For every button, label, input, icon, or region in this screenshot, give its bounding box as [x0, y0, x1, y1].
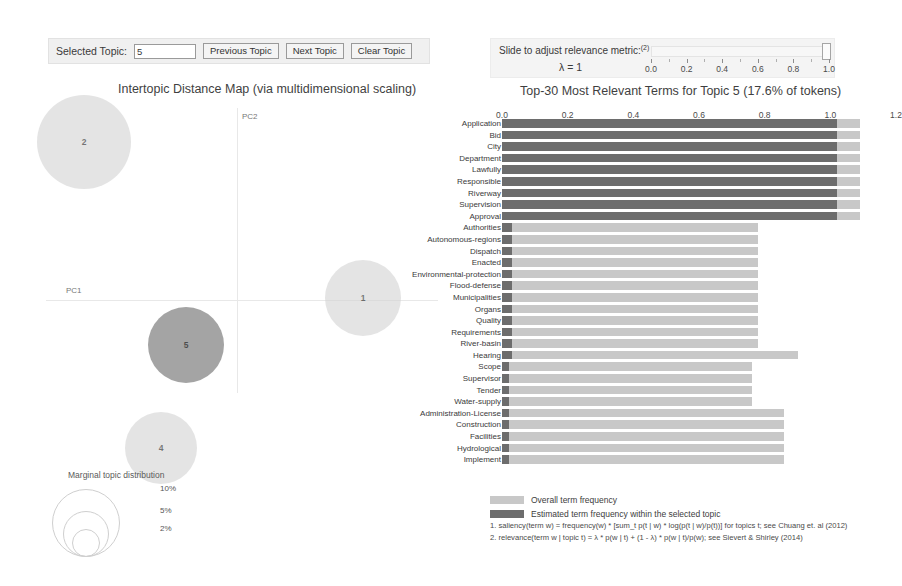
- bar-term-label[interactable]: Application: [462, 118, 501, 130]
- marginal-size-label: 2%: [160, 524, 172, 533]
- bar-chart-row[interactable]: Requirements: [418, 327, 896, 339]
- bar-chart-row[interactable]: Quality: [418, 315, 896, 327]
- bar-term-label[interactable]: Requirements: [451, 327, 501, 339]
- bar-term-label[interactable]: Authorities: [463, 222, 501, 234]
- bar-term-label[interactable]: City: [487, 141, 501, 153]
- bar-overall-frequency: [502, 270, 758, 279]
- bar-overall-frequency: [502, 432, 784, 441]
- bar-chart-row[interactable]: Bid: [418, 130, 896, 142]
- bar-term-label[interactable]: Organs: [475, 304, 501, 316]
- bar-estimated-frequency: [502, 281, 512, 290]
- selected-topic-input[interactable]: [134, 44, 196, 59]
- bar-estimated-frequency: [502, 131, 837, 140]
- bar-chart-row[interactable]: Application: [418, 118, 896, 130]
- bar-overall-frequency: [502, 409, 784, 418]
- topic-bubble-5[interactable]: 5: [148, 307, 224, 383]
- topic-bubble-2[interactable]: 2: [37, 95, 131, 189]
- bar-term-label[interactable]: Implement: [464, 454, 501, 466]
- legend-row-overall: Overall term frequency: [490, 494, 890, 506]
- bar-term-label[interactable]: Riverway: [468, 188, 501, 200]
- bar-estimated-frequency: [502, 154, 837, 163]
- bar-overall-frequency: [502, 235, 758, 244]
- bar-term-label[interactable]: Quality: [476, 315, 501, 327]
- bar-term-label[interactable]: Municipalities: [453, 292, 501, 304]
- relevance-slider-track[interactable]: [651, 46, 829, 57]
- bar-chart-row[interactable]: Supervisor: [418, 373, 896, 385]
- bar-term-label[interactable]: Dispatch: [470, 246, 501, 258]
- bar-chart-row[interactable]: Implement: [418, 454, 896, 466]
- bar-overall-frequency: [502, 316, 758, 325]
- slider-tick-major: [829, 59, 830, 63]
- bar-chart-row[interactable]: Approval: [418, 211, 896, 223]
- bar-chart-row[interactable]: Environmental-protection: [418, 269, 896, 281]
- previous-topic-button[interactable]: Previous Topic: [203, 43, 279, 59]
- bar-estimated-frequency: [502, 235, 512, 244]
- bar-chart-row[interactable]: Lawfully: [418, 164, 896, 176]
- bar-overall-frequency: [502, 444, 784, 453]
- bar-estimated-frequency: [502, 119, 837, 128]
- slider-tick-minor: [740, 59, 741, 62]
- bar-chart-row[interactable]: Supervision: [418, 199, 896, 211]
- topic-bubble-1[interactable]: 1: [325, 260, 401, 336]
- bar-term-label[interactable]: Water-supply: [454, 396, 501, 408]
- bar-term-label[interactable]: Responsible: [457, 176, 501, 188]
- next-topic-button[interactable]: Next Topic: [286, 43, 344, 59]
- bar-chart-row[interactable]: Riverway: [418, 188, 896, 200]
- bar-chart-row[interactable]: City: [418, 141, 896, 153]
- bar-term-label[interactable]: Flood-defense: [450, 280, 501, 292]
- bar-chart-row[interactable]: Facilities: [418, 431, 896, 443]
- clear-topic-button[interactable]: Clear Topic: [351, 43, 412, 59]
- bar-term-label[interactable]: Bid: [489, 130, 501, 142]
- bar-chart-row[interactable]: Tender: [418, 385, 896, 397]
- axis-label-pc2: PC2: [242, 112, 258, 121]
- bar-term-label[interactable]: Department: [459, 153, 501, 165]
- bar-estimated-frequency: [502, 305, 512, 314]
- bar-chart-row[interactable]: Scope: [418, 361, 896, 373]
- bar-chart-row[interactable]: Authorities: [418, 222, 896, 234]
- selected-topic-label: Selected Topic:: [56, 45, 127, 57]
- bar-term-label[interactable]: Tender: [477, 385, 501, 397]
- relevance-slider-footnote-ref: (2): [641, 44, 650, 51]
- bar-term-label[interactable]: Hydrological: [457, 443, 501, 455]
- slider-tick-label: 0.2: [681, 64, 693, 74]
- bar-chart-row[interactable]: Dispatch: [418, 246, 896, 258]
- bar-term-label[interactable]: Autonomous-regions: [427, 234, 501, 246]
- bar-chart-row[interactable]: Enacted: [418, 257, 896, 269]
- bar-chart-row[interactable]: River-basin: [418, 338, 896, 350]
- bar-term-label[interactable]: Environmental-protection: [412, 269, 501, 281]
- bar-overall-frequency: [502, 351, 798, 360]
- bar-chart-row[interactable]: Organs: [418, 304, 896, 316]
- bar-term-label[interactable]: River-basin: [461, 338, 501, 350]
- bar-chart-row[interactable]: Hydrological: [418, 443, 896, 455]
- bar-term-label[interactable]: Facilities: [470, 431, 501, 443]
- bar-chart-row[interactable]: Responsible: [418, 176, 896, 188]
- relevance-slider-handle[interactable]: [822, 43, 831, 60]
- bar-chart-row[interactable]: Department: [418, 153, 896, 165]
- legend-swatch-estimated: [490, 510, 524, 518]
- bar-overall-frequency: [502, 258, 758, 267]
- bar-term-label[interactable]: Hearing: [473, 350, 501, 362]
- bar-chart-row[interactable]: Hearing: [418, 350, 896, 362]
- bar-chart-row[interactable]: Administration-License: [418, 408, 896, 420]
- relevance-slider-caption-text: Slide to adjust relevance metric:: [499, 45, 641, 56]
- axis-vertical: [237, 108, 238, 393]
- slider-tick-major: [722, 59, 723, 63]
- bar-term-label[interactable]: Construction: [456, 419, 501, 431]
- bar-term-label[interactable]: Scope: [478, 361, 501, 373]
- bar-term-label[interactable]: Lawfully: [472, 164, 501, 176]
- bar-chart-row[interactable]: Flood-defense: [418, 280, 896, 292]
- bar-chart-row[interactable]: Construction: [418, 419, 896, 431]
- bar-estimated-frequency: [502, 432, 509, 441]
- bar-chart-row[interactable]: Water-supply: [418, 396, 896, 408]
- relevance-slider-axis: 0.00.20.40.60.81.0: [651, 59, 831, 77]
- bar-chart-row[interactable]: Municipalities: [418, 292, 896, 304]
- bar-term-label[interactable]: Administration-License: [420, 408, 501, 420]
- topic-selection-toolbar: Selected Topic: Previous Topic Next Topi…: [48, 38, 430, 64]
- bar-term-label[interactable]: Enacted: [472, 257, 501, 269]
- bar-term-label[interactable]: Supervisor: [463, 373, 501, 385]
- bar-estimated-frequency: [502, 212, 837, 221]
- bar-term-label[interactable]: Supervision: [459, 199, 501, 211]
- bar-term-label[interactable]: Approval: [469, 211, 501, 223]
- bar-chart-row[interactable]: Autonomous-regions: [418, 234, 896, 246]
- bar-estimated-frequency: [502, 189, 837, 198]
